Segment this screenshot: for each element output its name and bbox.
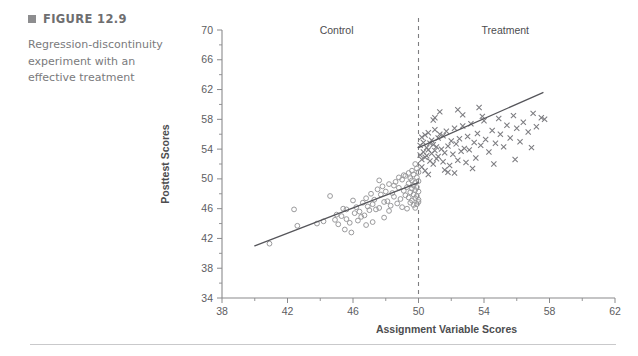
data-point	[419, 157, 424, 162]
data-point	[388, 203, 393, 208]
chart-area: 3438424650545862667038424650545862Assign…	[155, 0, 638, 356]
data-point	[336, 222, 341, 227]
data-point	[395, 201, 400, 206]
x-tick-label-54: 54	[478, 305, 490, 317]
x-tick-label-38: 38	[216, 305, 228, 317]
data-point	[440, 159, 445, 164]
data-point	[496, 116, 501, 121]
x-tick-label-58: 58	[544, 305, 556, 317]
data-point	[385, 199, 390, 204]
y-tick-label-54: 54	[201, 143, 213, 155]
data-point	[460, 112, 465, 117]
data-point	[387, 209, 392, 214]
data-point	[347, 220, 352, 225]
data-point	[531, 111, 536, 116]
data-point	[465, 134, 470, 139]
data-point	[442, 150, 447, 155]
series-control	[255, 162, 421, 246]
data-point	[267, 241, 272, 246]
data-point	[490, 128, 495, 133]
data-point	[452, 126, 457, 131]
data-point	[452, 170, 457, 175]
figure-number: FIGURE 12.9	[43, 12, 127, 26]
y-tick-label-58: 58	[201, 113, 213, 125]
y-tick-label-46: 46	[201, 202, 213, 214]
data-point	[511, 113, 516, 118]
data-point	[370, 220, 375, 225]
data-point	[513, 157, 518, 162]
y-tick-label-70: 70	[201, 24, 213, 36]
data-point	[454, 141, 459, 146]
data-point	[457, 136, 462, 141]
data-point	[463, 160, 468, 165]
fit-line-control	[255, 183, 419, 246]
data-point	[436, 154, 441, 159]
y-tick-label-38: 38	[201, 262, 213, 274]
data-point	[426, 130, 431, 135]
figure-heading: FIGURE 12.9	[28, 12, 173, 26]
data-point	[364, 223, 369, 228]
square-bullet-icon	[28, 15, 36, 23]
scatter-plot: 3438424650545862667038424650545862Assign…	[155, 0, 638, 356]
data-point	[342, 227, 347, 232]
data-point	[357, 209, 362, 214]
data-point	[486, 149, 491, 154]
data-point	[369, 191, 374, 196]
data-point	[339, 214, 344, 219]
data-point	[455, 158, 460, 163]
data-point	[470, 166, 475, 171]
data-point	[398, 197, 403, 202]
data-point	[295, 223, 300, 228]
data-point	[473, 155, 478, 160]
data-point	[445, 144, 450, 149]
footer-divider	[30, 344, 616, 345]
data-point	[504, 123, 509, 128]
data-point	[432, 115, 437, 120]
control-region-label: Control	[320, 24, 354, 36]
data-point	[382, 215, 387, 220]
data-point	[349, 230, 354, 235]
data-point	[478, 143, 483, 148]
data-point	[498, 132, 503, 137]
data-point	[442, 167, 447, 172]
data-point	[447, 163, 452, 168]
y-tick-label-42: 42	[201, 232, 213, 244]
data-point	[400, 205, 405, 210]
data-point	[476, 105, 481, 110]
data-point	[413, 162, 418, 167]
data-point	[517, 139, 522, 144]
data-point	[364, 196, 369, 201]
data-point	[419, 135, 424, 140]
data-point	[405, 206, 410, 211]
data-point	[401, 173, 406, 178]
data-point	[426, 172, 431, 177]
data-point	[493, 141, 498, 146]
data-point	[382, 200, 387, 205]
data-point	[387, 182, 392, 187]
data-point	[432, 127, 437, 132]
data-point	[472, 140, 477, 145]
x-tick-label-46: 46	[347, 305, 359, 317]
data-point	[383, 189, 388, 194]
data-point	[483, 137, 488, 142]
data-point	[292, 207, 297, 212]
figure-root: FIGURE 12.9 Regression-discontinuity exp…	[0, 0, 638, 356]
treatment-region-label: Treatment	[482, 24, 530, 36]
data-point	[375, 187, 380, 192]
data-point	[445, 170, 450, 175]
y-tick-label-34: 34	[201, 292, 213, 304]
data-point	[467, 147, 472, 152]
data-point	[462, 146, 467, 151]
data-point	[351, 198, 356, 203]
y-tick-label-50: 50	[201, 172, 213, 184]
data-point	[534, 124, 539, 129]
data-point	[514, 126, 519, 131]
data-point	[431, 161, 436, 166]
data-point	[333, 217, 338, 222]
data-point	[455, 107, 460, 112]
data-point	[475, 131, 480, 136]
data-point	[380, 184, 385, 189]
data-point	[341, 206, 346, 211]
data-point	[437, 109, 442, 114]
y-tick-label-62: 62	[201, 83, 213, 95]
